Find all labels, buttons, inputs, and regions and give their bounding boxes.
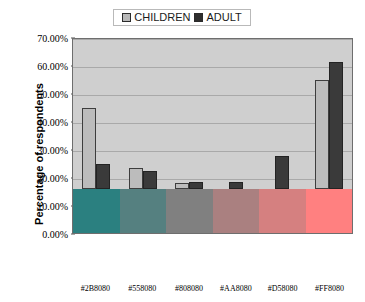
x-tick-label: #D58080 bbox=[259, 284, 306, 293]
bar-children bbox=[315, 80, 329, 189]
legend-swatch-icon-adult bbox=[194, 13, 203, 22]
bar-adult bbox=[229, 182, 243, 189]
legend-entry-adult: ADULT bbox=[194, 12, 241, 23]
plot-area bbox=[72, 38, 353, 234]
bar-children bbox=[129, 168, 143, 189]
x-tick-label: #2B8080 bbox=[72, 284, 119, 293]
x-tick-label: #FF8080 bbox=[306, 284, 353, 293]
y-tick-label: 0.00% bbox=[42, 229, 68, 240]
bar-children bbox=[175, 183, 189, 190]
bar-adult bbox=[189, 182, 203, 189]
legend-swatch-icon-children bbox=[122, 13, 131, 22]
y-tick-label: 30.00% bbox=[37, 145, 68, 156]
y-tick-label: 60.00% bbox=[37, 61, 68, 72]
x-tick-label: #AA8080 bbox=[212, 284, 259, 293]
bar-group bbox=[120, 38, 167, 233]
y-tick-label: 50.00% bbox=[37, 89, 68, 100]
y-axis-tick-labels: 0.00% 10.00% 20.00% 30.00% 40.00% 50.00%… bbox=[26, 38, 71, 234]
legend-entry-children: CHILDREN bbox=[122, 12, 190, 23]
legend-label-children: CHILDREN bbox=[134, 12, 190, 23]
bar-children bbox=[82, 108, 96, 189]
x-tick-label: #808080 bbox=[166, 284, 213, 293]
chart-legend: CHILDREN ADULT bbox=[113, 9, 251, 26]
bar-group bbox=[306, 38, 353, 233]
x-axis-tick-labels: #2B8080 #558080 #808080 #AA8080 #D58080 … bbox=[72, 284, 353, 293]
bar-adult bbox=[329, 62, 343, 189]
bar-group bbox=[166, 38, 213, 233]
y-tick-label: 10.00% bbox=[37, 201, 68, 212]
bar-adult bbox=[275, 156, 289, 189]
bar-chart: CHILDREN ADULT Percentage of respondents… bbox=[0, 0, 365, 302]
y-tick-label: 70.00% bbox=[37, 33, 68, 44]
y-tick-label: 40.00% bbox=[37, 117, 68, 128]
bar-adult bbox=[143, 171, 157, 189]
bar-group bbox=[73, 38, 120, 233]
x-tick-label: #558080 bbox=[119, 284, 166, 293]
legend-label-adult: ADULT bbox=[206, 12, 241, 23]
bar-adult bbox=[96, 164, 110, 189]
bars-layer bbox=[73, 39, 352, 233]
bar-group bbox=[259, 38, 306, 233]
bar-group bbox=[213, 38, 260, 233]
y-tick-label: 20.00% bbox=[37, 173, 68, 184]
